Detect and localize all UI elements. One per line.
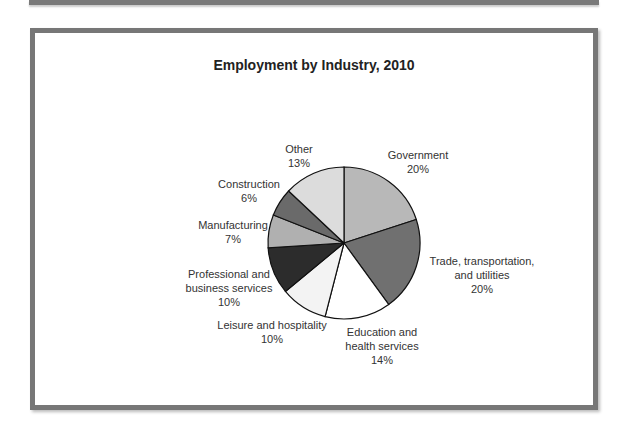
slice-label: Manufacturing7% xyxy=(198,218,268,246)
slice-label-line: Construction xyxy=(218,177,280,191)
slice-label-line: business services xyxy=(186,281,273,295)
slice-label-line: Trade, transportation, xyxy=(430,254,535,268)
slice-label-line: Other xyxy=(285,142,313,156)
slice-label-line: and utilities xyxy=(430,268,535,282)
slice-label-line: 14% xyxy=(345,353,418,367)
slice-label-line: Leisure and hospitality xyxy=(217,318,326,332)
pie-chart xyxy=(0,0,628,425)
slice-label: Leisure and hospitality10% xyxy=(217,318,326,346)
slice-label-line: Professional and xyxy=(186,267,273,281)
slice-label-line: Manufacturing xyxy=(198,218,268,232)
slice-label: Other13% xyxy=(285,142,313,170)
slice-label: Education andhealth services14% xyxy=(345,325,418,367)
slice-label-line: 13% xyxy=(285,156,313,170)
slice-label-line: health services xyxy=(345,339,418,353)
slice-label-line: Education and xyxy=(345,325,418,339)
slice-label-line: 20% xyxy=(388,162,449,176)
slice-label-line: 10% xyxy=(217,332,326,346)
slice-label: Professional andbusiness services10% xyxy=(186,267,273,309)
slice-label: Government20% xyxy=(388,148,449,176)
slice-label-line: Government xyxy=(388,148,449,162)
slice-label-line: 7% xyxy=(198,232,268,246)
slice-label-line: 10% xyxy=(186,295,273,309)
slice-label: Construction6% xyxy=(218,177,280,205)
slice-label-line: 6% xyxy=(218,191,280,205)
slice-label-line: 20% xyxy=(430,282,535,296)
slice-label: Trade, transportation,and utilities20% xyxy=(430,254,535,296)
